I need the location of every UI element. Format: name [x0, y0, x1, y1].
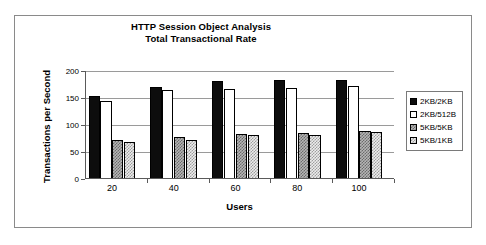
y-axis-line [85, 71, 86, 179]
y-axis-tick-label: 50 [70, 148, 79, 157]
legend-item: 5KB/5KB [410, 121, 460, 134]
x-axis-tick-label: 100 [352, 183, 367, 193]
chart-title: HTTP Session Object Analysis Total Trans… [15, 21, 387, 45]
bar [348, 86, 359, 179]
x-axis-tick-label: 20 [107, 183, 117, 193]
chart-legend: 2KB/2KB2KB/512B5KB/5KB5KB/1KB [406, 91, 463, 151]
legend-swatch-icon [410, 98, 417, 105]
legend-item: 5KB/1KB [410, 134, 460, 147]
x-axis-tick [332, 179, 333, 183]
x-axis-tick-label: 40 [169, 183, 179, 193]
y-axis-tick-label: 200 [66, 67, 79, 76]
x-axis-tick [147, 179, 148, 183]
legend-item-label: 2KB/512B [420, 111, 456, 119]
y-axis-tick-label: 150 [66, 94, 79, 103]
y-axis-title-text: Transactions per Second [41, 70, 52, 183]
y-axis-title: Transactions per Second [33, 68, 59, 184]
bar [359, 131, 370, 179]
x-axis-tick-label: 60 [230, 183, 240, 193]
legend-swatch-icon [410, 137, 417, 144]
x-axis-tick [270, 179, 271, 183]
y-axis-tick [81, 98, 85, 99]
bar-group [85, 71, 394, 179]
y-axis-tick [81, 125, 85, 126]
x-axis-tick [394, 179, 395, 183]
chart-frame: HTTP Session Object Analysis Total Trans… [14, 15, 472, 228]
y-axis-tick [81, 71, 85, 72]
legend-item-label: 5KB/1KB [420, 137, 452, 145]
y-axis-tick-label: 100 [66, 121, 79, 130]
legend-swatch-icon [410, 111, 417, 118]
x-axis-tick-label: 80 [292, 183, 302, 193]
y-axis-tick [81, 152, 85, 153]
y-axis-tick [81, 179, 85, 180]
legend-item: 2KB/512B [410, 108, 460, 121]
y-axis-tick-label: 0 [75, 175, 79, 184]
legend-item-label: 2KB/2KB [420, 98, 452, 106]
chart-title-line2: Total Transactional Rate [15, 33, 387, 45]
x-axis-title: Users [85, 201, 394, 212]
x-axis-tick [209, 179, 210, 183]
legend-item-label: 5KB/5KB [420, 124, 452, 132]
bar [336, 80, 347, 179]
chart-title-line1: HTTP Session Object Analysis [131, 21, 271, 32]
legend-swatch-icon [410, 124, 417, 131]
plot-area: 050100150200 20406080100 [85, 71, 394, 179]
x-axis-line [85, 178, 394, 179]
bar [371, 132, 382, 179]
legend-item: 2KB/2KB [410, 95, 460, 108]
